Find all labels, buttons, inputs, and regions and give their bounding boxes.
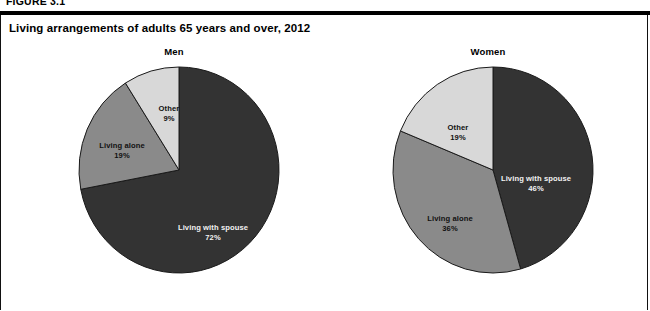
pie-label-women-alone-value: 36% xyxy=(442,224,458,233)
panel-women: Women Living with spouse 46% Living alon… xyxy=(338,46,638,301)
pie-label-women-other-value: 19% xyxy=(450,133,466,142)
panel-men: Men Living with spouse 72% Living alone … xyxy=(24,46,324,301)
pie-chart-men: Living with spouse 72% Living alone 19% … xyxy=(74,64,284,276)
pie-slices-men xyxy=(79,67,279,273)
pie-svg-men: Living with spouse 72% Living alone 19% … xyxy=(74,64,284,276)
pie-label-women-spouse-name: Living with spouse xyxy=(501,174,571,183)
pie-label-men-alone-value: 19% xyxy=(114,151,130,160)
pie-slices-women xyxy=(393,67,593,273)
figure-number-label: FIGURE 3.1 xyxy=(6,0,65,7)
pie-label-men-spouse-value: 72% xyxy=(205,233,221,242)
pie-chart-women: Living with spouse 46% Living alone 36% … xyxy=(388,64,598,276)
pie-label-women-alone-name: Living alone xyxy=(427,214,473,223)
panel-title-women: Women xyxy=(338,46,638,57)
figure-title: Living arrangements of adults 65 years a… xyxy=(9,22,310,34)
panel-title-men: Men xyxy=(24,46,324,57)
pie-svg-women: Living with spouse 46% Living alone 36% … xyxy=(388,64,598,276)
pie-label-men-spouse-name: Living with spouse xyxy=(178,223,248,232)
pie-label-men-other-name: Other xyxy=(159,104,180,113)
pie-label-men-other-value: 9% xyxy=(163,114,174,123)
figure-container: FIGURE 3.1 Living arrangements of adults… xyxy=(0,0,650,311)
pie-label-women-spouse-value: 46% xyxy=(528,184,544,193)
pie-label-men-alone-name: Living alone xyxy=(99,141,145,150)
pie-label-women-other-name: Other xyxy=(448,123,469,132)
